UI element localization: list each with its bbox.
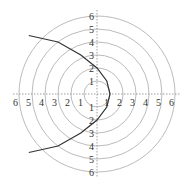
y-tick-label: 3 <box>89 128 94 139</box>
x-tick-label: 3 <box>52 97 57 108</box>
y-tick-label: 4 <box>89 141 94 152</box>
polar-chart: 654321123456654321123456 <box>0 0 182 191</box>
x-tick-label: 2 <box>65 97 70 108</box>
x-tick-label: 6 <box>13 97 18 108</box>
x-tick-label: 5 <box>156 97 161 108</box>
x-tick-label: 6 <box>169 97 174 108</box>
x-tick-label: 4 <box>143 97 148 108</box>
y-tick-label: 6 <box>89 167 94 178</box>
x-tick-label: 2 <box>117 97 122 108</box>
y-tick-label: 3 <box>89 50 94 61</box>
y-tick-label: 5 <box>89 24 94 35</box>
y-tick-label: 1 <box>89 102 94 113</box>
y-tick-label: 4 <box>89 37 94 48</box>
y-tick-label: 5 <box>89 154 94 165</box>
polar-grid-plot: 654321123456654321123456 <box>0 0 182 191</box>
y-tick-label: 1 <box>89 76 94 87</box>
x-tick-label: 1 <box>78 97 83 108</box>
y-tick-label: 6 <box>89 11 94 22</box>
x-tick-label: 3 <box>130 97 135 108</box>
x-tick-label: 4 <box>39 97 44 108</box>
x-tick-label: 5 <box>26 97 31 108</box>
